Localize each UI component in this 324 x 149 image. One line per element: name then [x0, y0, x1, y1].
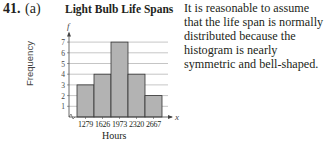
histogram-bar: [77, 85, 94, 117]
x-axis-symbol: x: [174, 112, 179, 122]
x-tick-labels: 12791626197323202667: [78, 120, 161, 129]
x-tick-label: 1973: [112, 120, 127, 129]
y-axis-label: Frequency: [24, 41, 35, 86]
x-axis-label: Hours: [102, 130, 126, 141]
x-tick-label: 1626: [95, 120, 110, 129]
histogram-bar: [111, 42, 128, 117]
x-tick-label: 1279: [78, 120, 93, 129]
histogram-bar: [145, 96, 162, 117]
x-tick-label: 2667: [146, 120, 161, 129]
y-tick-label: 6: [61, 49, 65, 58]
y-tick-label: 1: [61, 102, 65, 111]
histogram-bar: [94, 74, 111, 117]
histogram-bars: [77, 42, 162, 117]
y-tick-label: 4: [61, 70, 65, 79]
x-tick-label: 2320: [129, 120, 144, 129]
y-tick-label: 2: [61, 92, 65, 101]
y-tick-label: 5: [61, 60, 65, 69]
y-tick-label: 3: [61, 81, 65, 90]
y-tick-labels: 1234567: [61, 38, 65, 111]
axis-break-icon: [69, 114, 75, 119]
y-tick-label: 7: [61, 38, 65, 47]
histogram-bar: [128, 74, 145, 117]
y-axis-symbol: f: [67, 21, 71, 31]
